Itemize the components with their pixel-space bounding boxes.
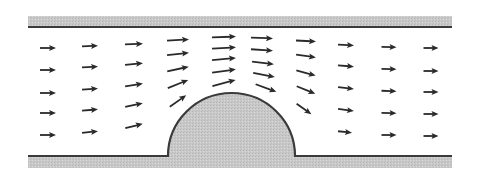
velocity-arrow-icon	[252, 59, 275, 68]
velocity-arrow-icon	[168, 93, 188, 109]
velocity-arrow-icon	[125, 121, 144, 131]
velocity-arrow-icon	[381, 66, 396, 72]
velocity-arrow-icon	[251, 46, 273, 54]
velocity-arrow-icon	[212, 55, 236, 63]
velocity-arrow-icon	[424, 68, 439, 74]
velocity-arrow-icon	[381, 110, 396, 116]
top-wall	[28, 16, 452, 27]
velocity-arrow-icon	[296, 83, 317, 96]
velocity-arrow-icon	[40, 90, 56, 96]
velocity-arrow-icon	[253, 70, 276, 80]
velocity-arrow-icon	[212, 77, 237, 89]
velocity-arrow-icon	[40, 45, 56, 51]
velocity-arrow-icon	[167, 64, 190, 74]
velocity-arrow-icon	[125, 41, 143, 48]
velocity-arrow-icon	[125, 60, 143, 68]
velocity-arrow-icon	[212, 44, 236, 51]
velocity-arrow-icon	[381, 88, 396, 95]
velocity-arrow-icon	[125, 81, 144, 90]
velocity-arrow-icon	[381, 44, 396, 50]
velocity-arrow-icon	[82, 85, 98, 92]
velocity-arrow-icon	[338, 106, 355, 114]
velocity-arrow-icon	[424, 111, 439, 117]
velocity-arrow-icon	[338, 62, 354, 69]
velocity-arrow-icon	[296, 37, 316, 44]
velocity-arrow-icon	[82, 64, 98, 71]
velocity-arrow-icon	[40, 67, 56, 73]
velocity-arrow-icon	[40, 110, 56, 116]
flow-diagram	[0, 0, 480, 182]
velocity-arrow-icon	[167, 36, 189, 43]
velocity-arrow-icon	[424, 89, 439, 95]
velocity-arrow-icon	[295, 101, 313, 116]
velocity-arrow-icon	[255, 81, 278, 94]
channel-walls	[28, 16, 452, 168]
velocity-arrow-icon	[296, 68, 317, 79]
velocity-arrow-icon	[424, 45, 439, 51]
velocity-arrow-icon	[338, 84, 355, 92]
velocity-arrow-icon	[167, 77, 190, 91]
channel-flow-canvas	[0, 0, 480, 182]
velocity-arrow-icon	[167, 50, 190, 58]
velocity-arrow-icon	[82, 43, 98, 50]
velocity-arrow-icon	[212, 34, 236, 41]
velocity-arrow-icon	[251, 35, 273, 42]
velocity-arrow-icon	[212, 66, 237, 75]
velocity-arrow-icon	[338, 42, 354, 49]
velocity-arrow-icon	[382, 132, 397, 138]
velocity-arrow-icon	[40, 132, 56, 138]
velocity-arrow-icon	[338, 128, 353, 135]
velocity-arrow-icon	[82, 128, 99, 136]
velocity-arrow-icon	[424, 133, 439, 139]
velocity-arrow-icon	[82, 106, 98, 113]
velocity-arrow-icon	[296, 52, 317, 61]
velocity-arrow-icon	[125, 100, 144, 110]
